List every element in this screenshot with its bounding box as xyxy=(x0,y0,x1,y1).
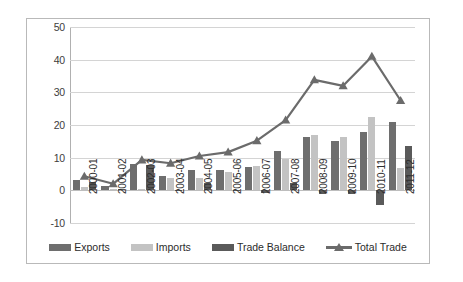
y-axis-tick-label: 0 xyxy=(59,184,65,196)
x-axis-label: 2010-11 xyxy=(376,160,387,195)
legend-item-exports: Exports xyxy=(49,241,110,253)
x-axis-label: 2002-03 xyxy=(146,159,157,194)
x-axis-label: 2007-08 xyxy=(290,159,301,194)
y-axis-tick-label: -10 xyxy=(50,217,65,229)
legend-item-trade-balance: Trade Balance xyxy=(212,241,305,253)
legend-label-exports: Exports xyxy=(74,241,110,253)
x-axis-label: 2001-02 xyxy=(117,159,128,194)
legend-label-imports: Imports xyxy=(156,241,191,253)
x-axis-label: 2008-09 xyxy=(318,159,329,194)
total-trade-marker xyxy=(310,75,319,83)
x-axis-label: 2006-07 xyxy=(261,159,272,194)
x-axis-label: 2000-01 xyxy=(88,159,99,194)
y-axis-tick-label: 50 xyxy=(54,21,65,33)
legend-swatch-exports xyxy=(49,244,71,251)
chart-frame: 50403020100-10 2000-012001-022002-032003… xyxy=(26,18,430,264)
legend-item-total-trade: Total Trade xyxy=(326,241,407,253)
x-axis-label: 2009-10 xyxy=(347,159,358,194)
plot-area: 50403020100-10 2000-012001-022002-032003… xyxy=(70,27,415,223)
legend-swatch-trade-balance xyxy=(212,244,234,251)
legend-label-total-trade: Total Trade xyxy=(355,241,407,253)
chart-legend: Exports Imports Trade Balance Total Trad… xyxy=(27,241,429,253)
x-axis-label: 2005-06 xyxy=(232,159,243,194)
gridline xyxy=(70,223,415,224)
legend-swatch-imports xyxy=(131,244,153,251)
x-axis-label: 2003-04 xyxy=(175,159,186,194)
y-axis-tick-label: 30 xyxy=(54,86,65,98)
legend-item-imports: Imports xyxy=(131,241,191,253)
total-trade-marker xyxy=(367,52,376,60)
y-axis-tick-label: 40 xyxy=(54,54,65,66)
legend-swatch-total-trade xyxy=(326,243,352,251)
x-axis-label: 2004-05 xyxy=(203,159,214,194)
y-axis-tick-label: 10 xyxy=(54,152,65,164)
y-axis-tick-label: 20 xyxy=(54,119,65,131)
legend-label-trade-balance: Trade Balance xyxy=(237,241,305,253)
x-axis-label: 2011-12 xyxy=(405,160,416,195)
